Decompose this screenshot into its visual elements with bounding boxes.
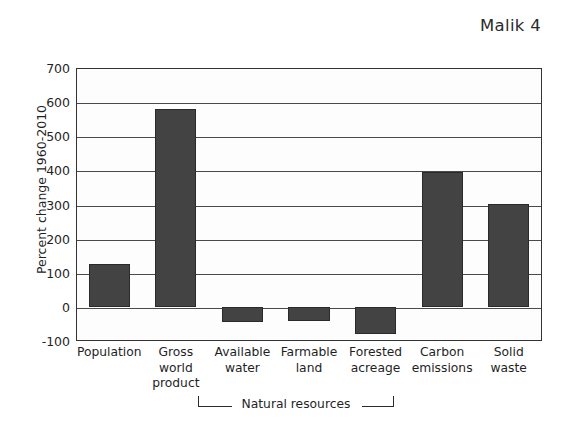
x-label-line: water [209,361,276,377]
y-tick-label: 500 [10,129,70,144]
y-axis-tick-labels: 7006005004003002001000-100 [8,68,70,341]
x-axis-label: Grossworldproduct [143,345,210,392]
x-axis-label: Availablewater [209,345,276,376]
y-tick-label: 0 [10,299,70,314]
y-tick-label: 300 [10,197,70,212]
plot-area [76,68,542,341]
x-label-line: emissions [409,361,476,377]
natural-resources-bracket: Natural resources [198,395,394,417]
x-label-line: Forested [342,345,409,361]
gridline [77,274,541,275]
y-tick-label: 600 [10,95,70,110]
x-label-line: waste [475,361,542,377]
x-axis-label: Carbonemissions [409,345,476,376]
gridline [77,171,541,172]
y-tick-label: 400 [10,163,70,178]
x-axis-category-labels: PopulationGrossworldproductAvailablewate… [76,345,542,397]
y-tick-label: 200 [10,231,70,246]
gridline [77,206,541,207]
y-tick-label: -100 [10,334,70,349]
bar-chart-figure: Percent change 1960-2010 700600500400300… [0,0,565,422]
x-label-line: world [143,361,210,377]
x-label-line: Solid [475,345,542,361]
x-label-line: Farmable [276,345,343,361]
x-axis-label: Forestedacreage [342,345,409,376]
x-axis-label: Farmableland [276,345,343,376]
x-label-line: product [143,376,210,392]
gridline [77,103,541,104]
gridline [77,137,541,138]
zero-line [77,308,541,309]
y-tick-label: 100 [10,265,70,280]
x-axis-label: Population [76,345,143,361]
x-label-line: acreage [342,361,409,377]
y-tick-label: 700 [10,61,70,76]
x-label-line: Available [209,345,276,361]
x-label-line: Gross [143,345,210,361]
x-label-line: Population [76,345,143,361]
x-axis-label: Solidwaste [475,345,542,376]
gridline [77,240,541,241]
x-label-line: land [276,361,343,377]
x-label-line: Carbon [409,345,476,361]
bracket-label: Natural resources [198,397,394,411]
